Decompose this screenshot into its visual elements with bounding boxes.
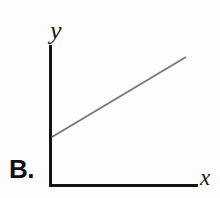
x-axis-label: x <box>200 166 210 189</box>
graph-panel-b: y x B. <box>0 0 220 198</box>
data-line-series-1 <box>52 57 186 137</box>
panel-label: B. <box>9 156 34 182</box>
y-axis-label: y <box>50 18 62 44</box>
